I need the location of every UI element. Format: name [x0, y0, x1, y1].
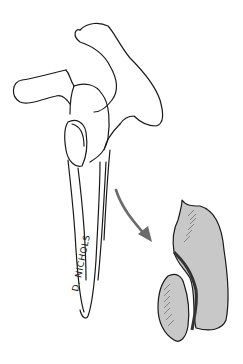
illustration: D. NICHOLS — [0, 0, 243, 364]
fracture-fragment — [158, 200, 228, 341]
arrow-icon — [116, 190, 152, 242]
artist-signature: D. NICHOLS — [70, 234, 92, 293]
scapula-drawing — [13, 23, 162, 318]
